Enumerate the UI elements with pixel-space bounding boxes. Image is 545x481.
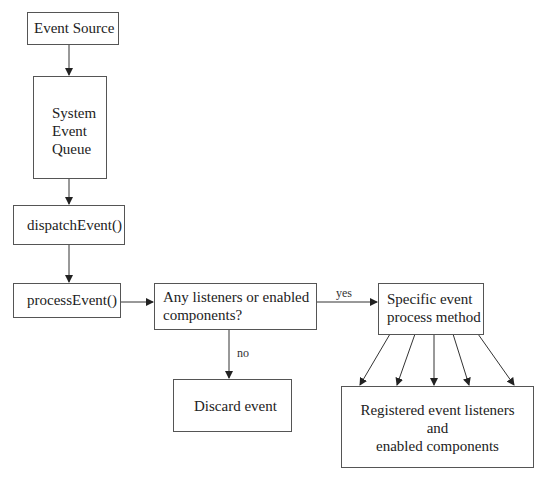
node-label-line: enabled components (342, 437, 533, 456)
node-dispatch-event: dispatchEvent() (13, 205, 125, 245)
node-label-line: Event (52, 122, 87, 141)
node-system-event-queue: System Event Queue (33, 76, 107, 179)
node-label: Discard event (194, 397, 277, 416)
edge-label-no: no (237, 346, 249, 361)
arrow-fan-2 (397, 334, 415, 385)
node-label-line: Specific event (387, 290, 472, 309)
node-discard-event: Discard event (173, 379, 292, 432)
node-label-line: components? (163, 306, 242, 325)
node-specific-method: Specific event process method (378, 283, 484, 335)
node-label-line: Registered event listeners (342, 401, 533, 420)
arrow-fan-4 (453, 334, 469, 385)
arrow-fan-5 (478, 334, 514, 385)
flowchart: Event Source System Event Queue dispatch… (0, 0, 545, 481)
edge-label-yes: yes (336, 286, 352, 301)
node-event-source: Event Source (27, 12, 119, 45)
node-label: dispatchEvent() (27, 216, 122, 235)
node-label-line: System (52, 104, 96, 123)
node-registered: Registered event listeners and enabled c… (341, 386, 534, 468)
node-decision: Any listeners or enabled components? (154, 283, 317, 330)
node-label-line: and (342, 419, 533, 438)
node-label: processEvent() (27, 291, 117, 310)
node-label-line: Any listeners or enabled (163, 288, 309, 307)
node-label-line: Queue (52, 140, 91, 159)
node-process-event: processEvent() (13, 283, 121, 318)
node-label-line: process method (387, 308, 481, 327)
arrow-fan-1 (360, 334, 390, 385)
node-label: Event Source (34, 19, 114, 38)
